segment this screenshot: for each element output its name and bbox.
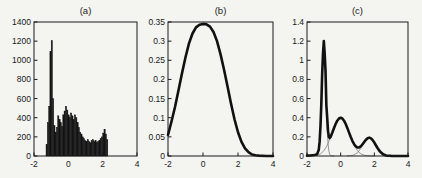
panel-c-ytick-label: 0 <box>299 151 304 161</box>
panel-a-ytick-label: 600 <box>17 94 31 104</box>
panel-a-ytick-label: 1400 <box>12 17 31 27</box>
panel-a-xtick-label: 2 <box>100 159 105 169</box>
panel-c-component-2-curve <box>307 118 374 156</box>
panel-b-ytick-label: 0.15 <box>148 94 165 104</box>
panel-a-ytick-label: 400 <box>17 113 31 123</box>
panel-a-ytick-label: 0 <box>26 151 31 161</box>
panel-b-ytick-label: 0.25 <box>148 55 165 65</box>
panel-c-xtick-label: -2 <box>303 159 311 169</box>
panel-b-ytick-label: 0 <box>160 151 165 161</box>
panel-c-ytick-label: 1 <box>299 55 304 65</box>
panel-a-xtick-label: -2 <box>30 159 38 169</box>
panel-c-component-3-curve <box>347 138 394 156</box>
panel-a-xtick-label: 0 <box>66 159 71 169</box>
panel-b-ytick-label: 0.3 <box>153 36 165 46</box>
panel-c-ytick-label: 0.6 <box>292 94 304 104</box>
panel-c-ytick-label: 1.4 <box>292 17 304 27</box>
figure-canvas: -20240200400600800100012001400-202400.05… <box>0 0 422 178</box>
panel-c-xtick-label: 0 <box>338 159 343 169</box>
panel-a-xtick-label: 4 <box>135 159 140 169</box>
panel-c-ytick-label: 1.2 <box>292 36 304 46</box>
panel-a-histogram-bar <box>107 140 108 156</box>
figure: -20240200400600800100012001400-202400.05… <box>0 0 422 178</box>
panel-b-xtick-label: -2 <box>164 159 172 169</box>
panel-a-title: (a) <box>34 5 137 17</box>
panel-b-ytick-label: 0.1 <box>153 113 165 123</box>
panel-b-axes-box <box>168 22 273 156</box>
panel-c-ytick-label: 0.4 <box>292 113 304 123</box>
panel-b-xtick-label: 2 <box>236 159 241 169</box>
panel-a-ytick-label: 1200 <box>12 36 31 46</box>
panel-b-smoothed-density-curve <box>168 24 273 156</box>
panel-c-ytick-label: 0.2 <box>292 132 304 142</box>
panel-c-ytick-label: 0.8 <box>292 74 304 84</box>
panel-a-ytick-label: 200 <box>17 132 31 142</box>
panel-a-ytick-label: 1000 <box>12 55 31 65</box>
panel-b-ytick-label: 0.2 <box>153 74 165 84</box>
panel-c-xtick-label: 4 <box>406 159 411 169</box>
panel-c-xtick-label: 2 <box>372 159 377 169</box>
panel-b-title: (b) <box>168 5 273 17</box>
panel-b-xtick-label: 4 <box>271 159 276 169</box>
panel-b-ytick-label: 0.05 <box>148 132 165 142</box>
panel-c-mixture-density-curve <box>307 41 408 156</box>
panel-a-ytick-label: 800 <box>17 74 31 84</box>
panel-b-ytick-label: 0.35 <box>148 17 165 27</box>
panel-c-title: (c) <box>307 5 408 17</box>
panel-b-xtick-label: 0 <box>201 159 206 169</box>
